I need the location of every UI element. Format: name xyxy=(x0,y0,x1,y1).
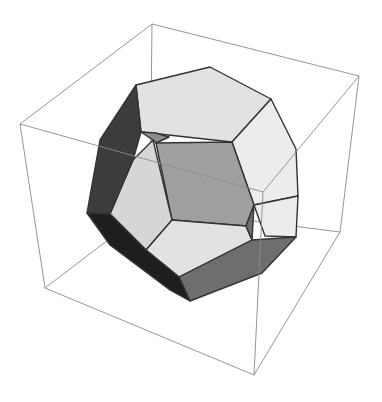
dodecahedron-diagram xyxy=(0,0,382,402)
dodecahedron xyxy=(87,67,298,301)
box-edge-BC xyxy=(152,24,359,76)
figure-canvas: dodecahedron inside bounding box xyxy=(0,0,382,402)
box-edge-DE xyxy=(45,288,254,375)
box-edge-CF xyxy=(340,76,359,232)
box-edge-AD xyxy=(20,124,45,288)
